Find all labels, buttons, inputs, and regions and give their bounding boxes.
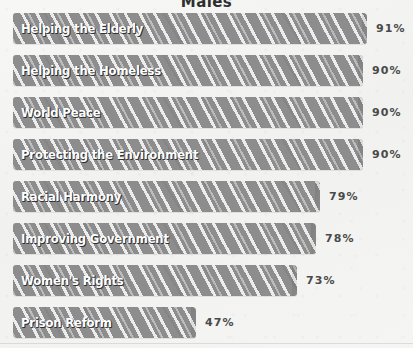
chart-baseline: [0, 343, 413, 344]
bar-end-edge: [191, 307, 196, 338]
bar-hatch-pattern: [13, 55, 363, 86]
bar-row: Improving Government78%: [0, 222, 413, 256]
bar-value-label: 91%: [376, 12, 406, 46]
bar-row: Helping the Elderly91%: [0, 12, 413, 46]
bar-end-edge: [311, 223, 316, 254]
bar[interactable]: [13, 181, 320, 212]
bar-end-edge: [362, 13, 367, 44]
bar-hatch-pattern: [13, 97, 363, 128]
bar-end-edge: [358, 97, 363, 128]
bar-chart-plot-area: Helping the Elderly91%Helping the Homele…: [0, 12, 413, 342]
bar-end-edge: [315, 181, 320, 212]
bar-value-label: 90%: [372, 138, 402, 172]
bar-row: Helping the Homeless90%: [0, 54, 413, 88]
bar-end-edge: [292, 265, 297, 296]
bar-row: Women's Rights73%: [0, 264, 413, 298]
bar-hatch-pattern: [13, 223, 316, 254]
bar-value-label: 90%: [372, 54, 402, 88]
bar[interactable]: [13, 265, 297, 296]
bar[interactable]: [13, 13, 367, 44]
bar[interactable]: [13, 139, 363, 170]
bar-row: World Peace90%: [0, 96, 413, 130]
bar-value-label: 73%: [306, 264, 336, 298]
bar[interactable]: [13, 223, 316, 254]
bar-end-edge: [358, 139, 363, 170]
bar[interactable]: [13, 307, 196, 338]
bar-value-label: 78%: [325, 222, 355, 256]
bar-hatch-pattern: [13, 265, 297, 296]
bar-hatch-pattern: [13, 139, 363, 170]
bar-row: Protecting the Environment90%: [0, 138, 413, 172]
bar-value-label: 47%: [205, 306, 235, 340]
bar[interactable]: [13, 97, 363, 128]
chart-title: Males: [0, 0, 413, 11]
bar-value-label: 90%: [372, 96, 402, 130]
bar-row: Racial Harmony79%: [0, 180, 413, 214]
bar-value-label: 79%: [329, 180, 359, 214]
bar[interactable]: [13, 55, 363, 86]
bar-row: Prison Reform47%: [0, 306, 413, 340]
bar-end-edge: [358, 55, 363, 86]
bar-hatch-pattern: [13, 307, 196, 338]
bar-hatch-pattern: [13, 181, 320, 212]
bar-hatch-pattern: [13, 13, 367, 44]
